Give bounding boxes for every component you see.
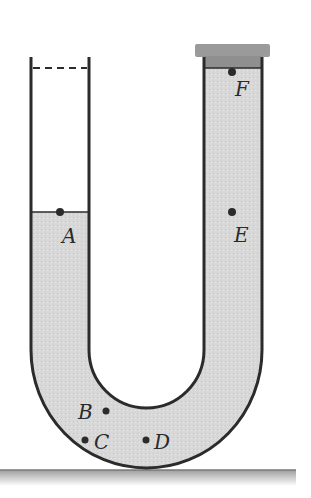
point-e-dot [228,208,236,216]
tube-cap [195,44,270,57]
point-f-label: F [234,77,250,101]
point-e-label: E [233,223,249,247]
point-c-label: C [94,430,109,454]
point-f-dot [228,68,236,76]
point-d-dot [143,437,150,444]
cap-plug [204,56,262,68]
point-a-dot [56,208,64,216]
u-tube-diagram: A B C D E F [0,0,311,498]
point-b-dot [103,408,110,415]
ground [0,470,296,486]
point-a-label: A [60,224,76,248]
point-c-dot [82,437,89,444]
point-b-label: B [77,400,93,424]
point-d-label: D [153,430,170,454]
